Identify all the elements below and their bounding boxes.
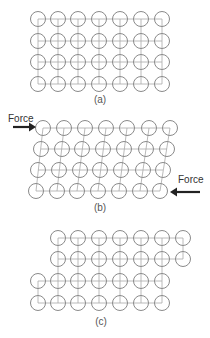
panel-b-lattice	[29, 121, 178, 199]
force-right-arrow-icon	[170, 188, 200, 197]
panel-c-lattice	[31, 231, 191, 311]
panel-c-label: (c)	[95, 316, 107, 327]
panel-a-label: (a)	[94, 94, 106, 105]
force-right-label: Force	[178, 174, 204, 185]
lattice-diagram: (a) Force Force (b)	[0, 0, 210, 338]
panel-a-lattice	[31, 12, 170, 92]
force-left-label: Force	[8, 113, 34, 124]
panel-b-label: (b)	[94, 202, 106, 213]
